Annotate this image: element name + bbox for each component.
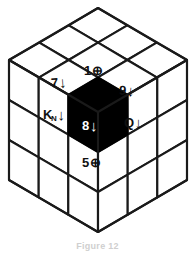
down-arrow-icon: ↓: [58, 107, 65, 122]
label-kn-subscript: N: [51, 114, 56, 123]
label-1-value: 1: [84, 63, 91, 78]
figure-container: 1⊕ 7↓ 9↓ KN↓ Q↓ 8↓ 5⊕ Figure 12: [0, 0, 195, 253]
isometric-cube-diagram: [0, 0, 195, 253]
down-arrow-icon: ↓: [90, 118, 97, 133]
label-1: 1⊕: [84, 62, 103, 78]
label-q: Q↓: [124, 114, 142, 130]
label-q-value: Q: [124, 115, 134, 130]
label-9-value: 9: [118, 82, 126, 97]
figure-caption: Figure 12: [0, 241, 195, 253]
down-arrow-icon: ↓: [126, 83, 134, 98]
label-5-value: 5: [82, 155, 89, 170]
label-7: 7↓: [50, 73, 66, 90]
label-8-value: 8: [82, 118, 89, 133]
label-5: 5⊕: [82, 154, 101, 170]
label-8: 8↓: [82, 117, 97, 133]
down-arrow-icon: ↓: [135, 115, 142, 130]
label-9: 9↓: [118, 81, 134, 98]
circled-plus-icon: ⊕: [92, 63, 103, 78]
label-kn: KN↓: [43, 106, 65, 123]
label-7-value: 7: [51, 75, 59, 90]
down-arrow-icon: ↓: [58, 74, 66, 89]
circled-plus-icon: ⊕: [90, 155, 101, 170]
